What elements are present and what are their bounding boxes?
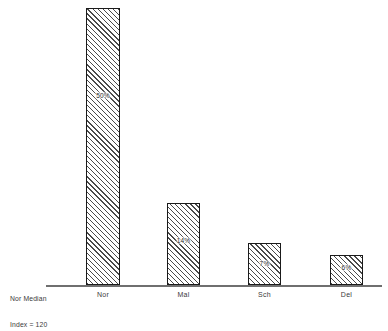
bar-nor <box>86 8 120 285</box>
x-axis-line <box>46 285 382 287</box>
bar-value-sch: 7% <box>248 260 281 267</box>
bar-value-nor: 50% <box>86 92 120 99</box>
axis-annotation-line-1: Nor Median <box>10 295 47 304</box>
axis-annotation: Nor Median Index = 120 <box>10 278 47 331</box>
x-axis-label-nor: Nor <box>86 291 120 298</box>
bar-mal <box>167 203 200 285</box>
x-axis-label-mal: Mal <box>167 291 200 298</box>
x-axis-label-del: Del <box>330 291 363 298</box>
bar-value-del: 6% <box>330 264 363 271</box>
bar-value-mal: 14% <box>167 237 200 244</box>
x-axis-label-sch: Sch <box>248 291 281 298</box>
axis-annotation-line-2: Index = 120 <box>10 321 47 330</box>
